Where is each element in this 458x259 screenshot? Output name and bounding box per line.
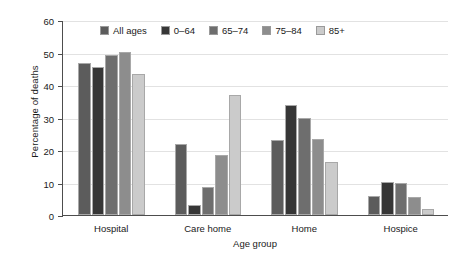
plot-area: 0102030405060 HospitalCare homeHomeHospi…: [62, 21, 448, 216]
legend-swatch-icon: [161, 26, 170, 35]
bar: [422, 209, 435, 215]
x-axis-category-label: Hospice: [384, 223, 418, 234]
y-axis-tick: [58, 216, 63, 217]
x-axis-title: Age group: [62, 238, 448, 249]
bar: [381, 182, 394, 215]
y-axis-tick-label: 20: [43, 146, 54, 157]
legend-item: 65–74: [209, 25, 248, 36]
x-axis-category-label: Care home: [184, 223, 231, 234]
y-axis-tick-label: 60: [43, 16, 54, 27]
bar: [395, 183, 408, 216]
legend-label: 85+: [329, 25, 345, 36]
legend-item: All ages: [100, 25, 147, 36]
legend-swatch-icon: [209, 26, 218, 35]
legend-swatch-icon: [100, 26, 109, 35]
x-axis-category-label: Home: [292, 223, 317, 234]
y-axis-tick-label: 0: [49, 211, 54, 222]
y-axis-tick-label: 10: [43, 178, 54, 189]
y-axis-title: Percentage of deaths: [29, 32, 40, 192]
bar-series-container: [63, 21, 448, 215]
bar: [368, 196, 381, 215]
legend-item: 75–84: [262, 25, 301, 36]
y-axis-tick-label: 30: [43, 113, 54, 124]
chart-legend: All ages0–6465–7475–8485+: [100, 25, 345, 36]
bar-chart-figure: Percentage of deaths 0102030405060 Hospi…: [0, 0, 458, 259]
legend-item: 85+: [316, 25, 345, 36]
x-axis-category-label: Hospital: [94, 223, 128, 234]
legend-swatch-icon: [262, 26, 271, 35]
legend-item: 0–64: [161, 25, 195, 36]
legend-label: 0–64: [174, 25, 195, 36]
legend-label: 75–84: [275, 25, 301, 36]
legend-label: All ages: [113, 25, 147, 36]
legend-label: 65–74: [222, 25, 248, 36]
y-axis-tick-label: 40: [43, 81, 54, 92]
y-axis-tick-label: 50: [43, 48, 54, 59]
legend-swatch-icon: [316, 26, 325, 35]
bar-group-hospice: [63, 21, 448, 215]
bar: [408, 197, 421, 215]
